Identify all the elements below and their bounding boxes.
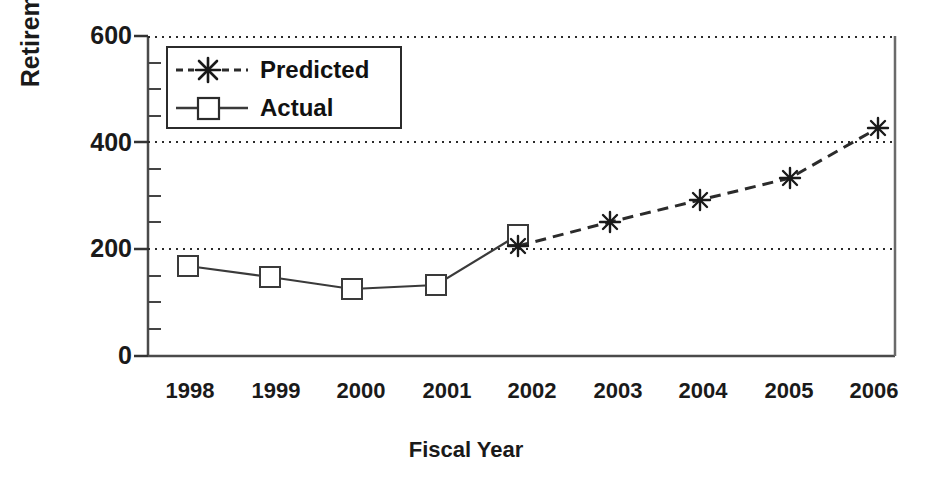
x-tick-label-1998: 1998	[166, 378, 215, 404]
x-tick-label-2001: 2001	[423, 378, 472, 404]
data-point-actual-1998	[178, 256, 198, 276]
data-point-predicted-2005	[780, 168, 800, 188]
legend-item-actual: Actual	[168, 89, 400, 127]
chart-page: Retirements 600 400 200 0	[0, 0, 932, 483]
data-point-actual-2001	[426, 275, 446, 295]
x-axis-tick-labels: 1998 1999 2000 2001 2002 2003 2004 2005 …	[0, 378, 932, 408]
data-point-predicted-2002	[508, 236, 528, 256]
plot-area	[0, 0, 932, 483]
data-point-predicted-2003	[600, 212, 620, 232]
data-point-actual-2000	[342, 279, 362, 299]
x-tick-label-2002: 2002	[508, 378, 557, 404]
x-axis-title: Fiscal Year	[0, 437, 932, 463]
legend-label-predicted: Predicted	[260, 58, 369, 82]
legend-sample-actual	[168, 91, 260, 125]
x-tick-label-2006: 2006	[850, 378, 899, 404]
asterisk-marker-icon	[168, 53, 260, 87]
data-point-actual-1999	[260, 267, 280, 287]
x-tick-label-2004: 2004	[679, 378, 728, 404]
legend-label-actual: Actual	[260, 96, 333, 120]
square-marker-icon	[168, 91, 260, 125]
legend-sample-predicted	[168, 53, 260, 87]
x-tick-label-2005: 2005	[765, 378, 814, 404]
data-point-predicted-2004	[690, 190, 710, 210]
data-point-predicted-2006	[868, 118, 888, 138]
x-tick-label-2003: 2003	[594, 378, 643, 404]
x-tick-label-1999: 1999	[252, 378, 301, 404]
y-major-ticks	[134, 36, 148, 356]
series-predicted	[508, 118, 888, 256]
legend: Predicted Actual	[166, 46, 402, 129]
legend-item-predicted: Predicted	[168, 51, 400, 89]
x-tick-label-2000: 2000	[337, 378, 386, 404]
y-minor-ticks	[148, 63, 161, 329]
series-actual	[178, 225, 528, 299]
